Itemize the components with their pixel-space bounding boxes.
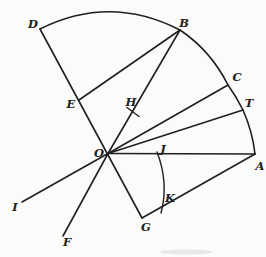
point-labels: DBCTEHOJAGKIF (11, 16, 264, 249)
ray-O-A (108, 154, 255, 155)
point-label-H: H (125, 95, 138, 109)
point-label-K: K (164, 191, 176, 205)
point-label-D: D (27, 17, 38, 31)
point-label-T: T (245, 96, 255, 110)
point-label-C: C (232, 70, 242, 84)
chord-E-B (79, 30, 180, 100)
point-label-F: F (62, 235, 72, 249)
scan-smudge (160, 250, 212, 255)
point-label-E: E (66, 97, 76, 111)
point-label-A: A (255, 159, 265, 173)
arc-D-to-A (40, 12, 255, 154)
point-label-B: B (178, 16, 189, 30)
geometry-construction-diagram: DBCTEHOJAGKIF (0, 0, 266, 257)
segment-G-A (142, 154, 255, 218)
arc-J-K (157, 152, 164, 213)
scanned-textbook-figure: DBCTEHOJAGKIF (0, 0, 266, 257)
line-D-E-O-G (40, 29, 142, 218)
point-label-O: O (94, 146, 104, 160)
point-label-G: G (141, 220, 151, 234)
ray-O-T (108, 110, 243, 154)
point-label-I: I (11, 200, 18, 214)
